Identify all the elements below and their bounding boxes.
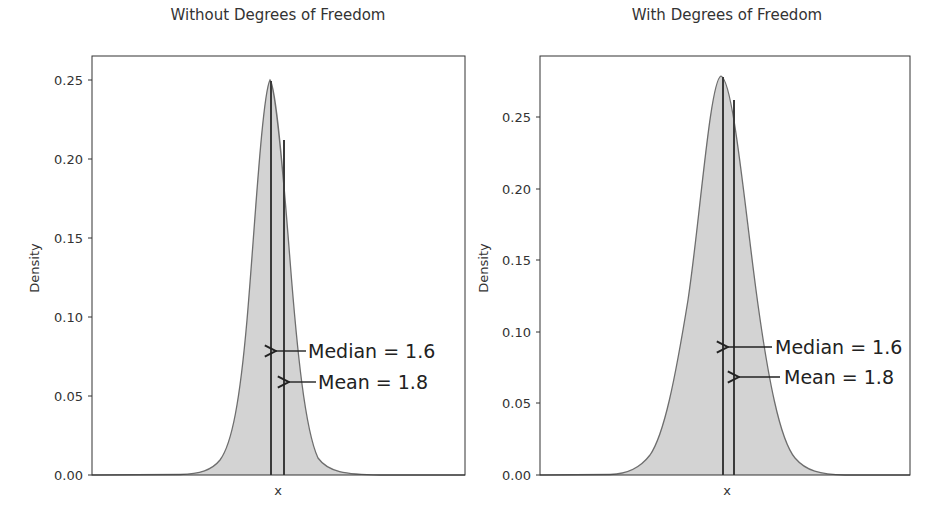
left-ytick-label: 0.25 — [54, 73, 83, 88]
right-chart-title: With Degrees of Freedom — [632, 6, 822, 24]
left-ytick-label: 0.10 — [54, 310, 83, 325]
right-y-ticks — [536, 117, 540, 475]
right-density-area — [540, 76, 910, 475]
figure: Without Degrees of Freedom 0.00 0.05 0.1… — [0, 0, 940, 518]
right-median-annotation: Median = 1.6 — [775, 336, 902, 358]
right-ytick-label: 0.00 — [502, 468, 531, 483]
left-density-area — [92, 80, 465, 475]
left-ytick-label: 0.20 — [54, 152, 83, 167]
left-mean-annotation: Mean = 1.8 — [318, 371, 428, 393]
left-y-axis-label: Density — [27, 243, 42, 293]
left-x-axis-label: x — [274, 483, 282, 498]
left-chart: Without Degrees of Freedom 0.00 0.05 0.1… — [27, 6, 465, 498]
left-chart-title: Without Degrees of Freedom — [171, 6, 386, 24]
right-ytick-label: 0.25 — [502, 110, 531, 125]
right-ytick-label: 0.10 — [502, 325, 531, 340]
right-y-axis-label: Density — [476, 243, 491, 293]
right-chart: With Degrees of Freedom 0.00 0.05 0.10 0… — [476, 6, 910, 498]
right-ytick-label: 0.05 — [502, 396, 531, 411]
right-ytick-label: 0.15 — [502, 253, 531, 268]
left-ytick-label: 0.15 — [54, 231, 83, 246]
right-x-axis-label: x — [723, 483, 731, 498]
right-mean-annotation: Mean = 1.8 — [784, 366, 894, 388]
left-median-annotation: Median = 1.6 — [308, 340, 435, 362]
left-ytick-label: 0.05 — [54, 389, 83, 404]
right-ytick-label: 0.20 — [502, 182, 531, 197]
left-y-ticks — [88, 80, 92, 475]
left-ytick-label: 0.00 — [54, 468, 83, 483]
